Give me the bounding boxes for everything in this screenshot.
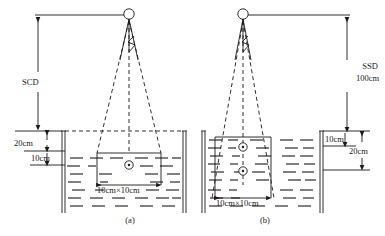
ion-chamber-b-lower: [239, 167, 247, 175]
label-scd: SCD: [22, 78, 39, 87]
panel-a-group: [15, 9, 187, 213]
label-a-10cm: 10cm: [31, 154, 50, 163]
label-b-20cm: 20cm: [349, 147, 368, 156]
ion-chamber-a: [125, 161, 133, 169]
caption-panel-b: (b): [245, 216, 285, 225]
collimator-cone-b: [235, 19, 251, 60]
caption-panel-a: (a): [110, 216, 150, 225]
label-field-size-a: 10cm×10cm: [97, 186, 140, 195]
label-b-10cm: 10cm: [325, 135, 344, 144]
label-field-size-b: 10cm×10cm: [216, 199, 259, 208]
source-circle-b: [238, 9, 248, 19]
ion-chamber-b-upper: [239, 143, 247, 151]
panel-b-group: [201, 9, 370, 213]
collimator-cone-a: [120, 19, 138, 60]
source-circle-a: [124, 9, 134, 19]
tank-walls-a: [61, 131, 187, 213]
label-a-20cm: 20cm: [14, 139, 33, 148]
water-hatching-b: [208, 140, 316, 206]
figure-radiation-geometry: SCD 20cm 10cm 10cm×10cm (a) SSD 100cm 10…: [0, 0, 385, 236]
label-ssd-value: 100cm: [350, 74, 385, 83]
label-ssd: SSD: [355, 62, 385, 71]
water-hatching-a: [67, 158, 181, 206]
diagram-canvas: [0, 0, 385, 236]
